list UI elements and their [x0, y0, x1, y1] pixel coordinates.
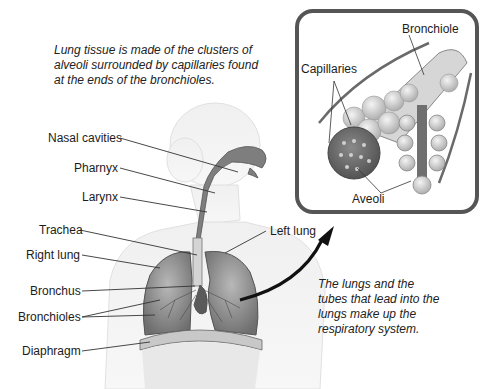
alveoli-inset [295, 9, 479, 214]
label-trachea: Trachea [39, 223, 83, 237]
caption-respiratory-system: The lungs and the tubes that lead into t… [318, 277, 443, 337]
label-right-lung: Right lung [26, 248, 80, 262]
label-bronchus: Bronchus [30, 284, 81, 298]
label-larynx: Larynx [82, 190, 118, 204]
label-alveoli: Aveoli [352, 192, 384, 206]
label-diaphragm: Diaphragm [22, 344, 81, 358]
trachea-shape [193, 238, 202, 286]
label-bronchioles: Bronchioles [18, 310, 81, 324]
alveoli-detail-art [299, 13, 475, 210]
label-bronchiole: Bronchiole [402, 22, 459, 36]
label-left-lung: Left lung [270, 224, 316, 238]
caption-lung-tissue: Lung tissue is made of the clusters of a… [54, 43, 269, 88]
label-pharynx: Pharnyx [74, 161, 118, 175]
label-capillaries: Capillaries [301, 62, 357, 76]
label-nasal-cavities: Nasal cavities [48, 131, 122, 145]
